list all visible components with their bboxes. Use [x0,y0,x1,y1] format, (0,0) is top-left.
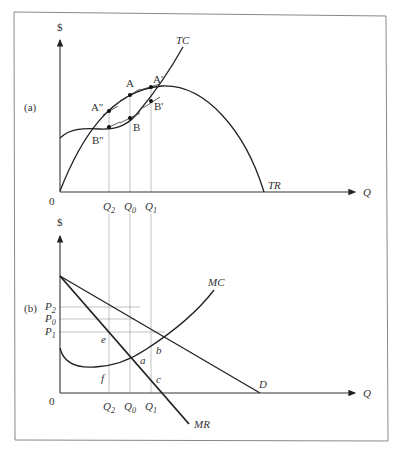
panel-b: $ Q 0 (b) P2 P0 P1 MC MR D a b c e f Q2 … [24,216,371,430]
y-axis-label-a: $ [57,21,63,33]
label-a-small: a [140,354,146,366]
y-axis-label-b: $ [57,216,63,228]
point-b2 [107,125,111,129]
q2-tick-a: Q2 [103,200,115,215]
point-a1 [149,85,153,89]
point-a2 [107,109,111,113]
label-e-small: e [101,333,106,345]
tc-curve [60,47,183,138]
label-b: B [133,121,140,133]
origin-label-a: 0 [49,195,55,207]
q0-tick-b: Q0 [124,400,136,415]
q2-tick-b: Q2 [103,400,115,415]
x-axis-label-b: Q [363,387,371,399]
label-a2: A'' [91,101,103,113]
diagram-canvas: $ Q 0 (a) TC TR A A' A'' B B' B'' Q2 Q0 … [0,0,396,451]
mr-label: MR [193,418,210,430]
label-b-small: b [156,344,162,356]
figure-frame [14,12,388,441]
x-axis-label-a: Q [363,186,371,198]
panel-a: $ Q 0 (a) TC TR A A' A'' B B' B'' Q2 Q0 … [24,21,371,215]
point-b [128,116,132,120]
q1-tick-a: Q1 [145,200,157,215]
panel-a-tag: (a) [24,101,37,114]
tr-label: TR [268,179,281,191]
label-a1: A' [153,73,163,85]
mc-label: MC [207,276,225,288]
panel-b-tag: (b) [24,302,37,315]
q0-tick-a: Q0 [124,200,136,215]
origin-label-b: 0 [49,395,55,407]
point-a [128,93,132,97]
label-a: A [126,77,134,89]
label-b1: B' [154,100,163,112]
q1-tick-b: Q1 [145,400,157,415]
label-f-small: f [101,372,106,384]
tc-label: TC [176,34,190,46]
label-c-small: c [156,373,161,385]
label-b2: B'' [92,134,103,146]
p1-label: P1 [44,325,56,340]
d-label: D [258,378,267,390]
point-b1 [149,99,153,103]
